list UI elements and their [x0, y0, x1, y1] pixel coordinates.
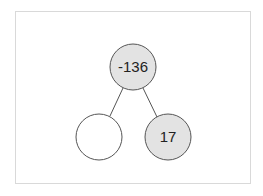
node-value: 17: [160, 128, 177, 145]
binary-tree-diagram: -136 17: [0, 0, 263, 196]
node-circle: [76, 114, 122, 160]
node-value: -136: [118, 58, 148, 75]
tree-node-root: -136: [110, 44, 156, 90]
tree-node-right: 17: [145, 114, 191, 160]
tree-node-left: [76, 114, 122, 160]
edge-root-left: [110, 88, 123, 116]
edge-root-right: [143, 88, 157, 117]
